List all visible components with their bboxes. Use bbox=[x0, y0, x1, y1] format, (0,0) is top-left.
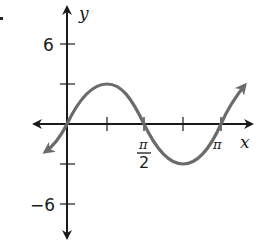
x-tick-label-pi: π bbox=[212, 137, 222, 152]
y-axis-label: y bbox=[78, 3, 89, 23]
bullet-dot bbox=[0, 17, 3, 20]
sine-curve-left bbox=[45, 124, 67, 152]
y-tick-label-6: 6 bbox=[43, 35, 54, 55]
x-tick-label-pi-over-2: π 2 bbox=[137, 137, 151, 172]
x-axis-label: x bbox=[240, 132, 250, 152]
sine-graph: y x 6 −6 π 2 π bbox=[0, 0, 257, 241]
svg-text:π: π bbox=[138, 137, 148, 152]
y-tick-label-neg6: −6 bbox=[30, 195, 55, 215]
svg-text:2: 2 bbox=[139, 153, 149, 172]
